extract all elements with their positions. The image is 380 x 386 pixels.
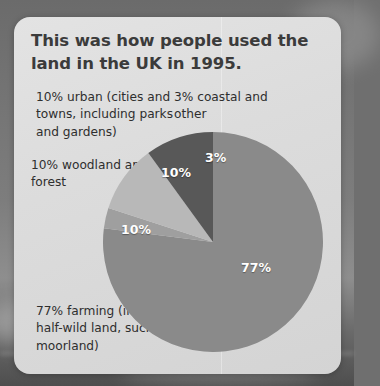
slice-value-urban: 10% — [161, 165, 191, 180]
slice-value-woodland: 10% — [121, 222, 151, 237]
pie-chart: 77% 10% 10% 3% — [103, 132, 323, 352]
callout-label-coastal: 3% coastal and other — [174, 89, 284, 124]
slice-value-farming: 77% — [241, 260, 271, 275]
page-title: This was how people used the land in the… — [31, 30, 331, 76]
infographic-card: This was how people used the land in the… — [14, 17, 341, 374]
slice-value-coastal: 3% — [205, 150, 226, 165]
pie-chart-svg — [103, 132, 323, 352]
